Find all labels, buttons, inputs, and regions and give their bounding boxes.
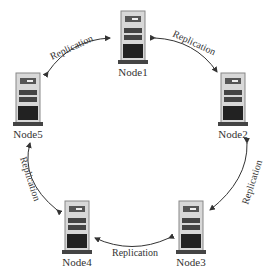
server-icon-node3 xyxy=(176,200,206,256)
edge-label-2-3: Replication xyxy=(239,158,264,205)
edge-label-3-4: Replication xyxy=(112,247,158,258)
node-label-node4: Node4 xyxy=(52,256,102,268)
node-label-node1: Node1 xyxy=(108,66,158,78)
edge-label-5-1: Replication xyxy=(48,32,94,61)
replication-ring-diagram: Replication Replication Replication Repl… xyxy=(0,0,266,279)
server-icon-node4 xyxy=(62,200,92,256)
server-icon-node2 xyxy=(218,72,248,128)
server-icon-node5 xyxy=(13,72,43,128)
node-label-node5: Node5 xyxy=(3,128,53,140)
server-icon-node1 xyxy=(118,10,148,66)
edge-label-4-5: Replication xyxy=(18,155,43,202)
node-label-node3: Node3 xyxy=(166,256,216,268)
node-label-node2: Node2 xyxy=(208,128,258,140)
